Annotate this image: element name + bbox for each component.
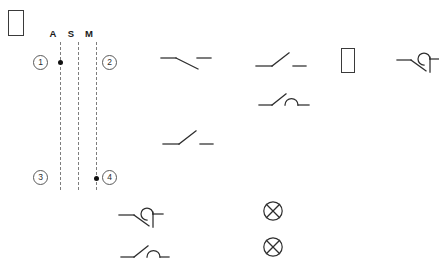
diagram-canvas: A S M 1 2 3 4 — [0, 0, 439, 274]
switch-arrow-actuator-1 — [396, 52, 439, 78]
vertical-line-s — [78, 42, 79, 190]
vertical-line-m — [96, 42, 97, 190]
switch-arrow-actuator-2 — [118, 207, 164, 233]
tofu-box-top-left — [8, 10, 24, 36]
column-label-m: M — [82, 29, 96, 39]
switch-normally-open-1 — [255, 48, 307, 74]
callout-1[interactable]: 1 — [33, 55, 48, 70]
indicator-lamp-2 — [262, 236, 284, 258]
junction-dot-m-bottom — [94, 176, 99, 181]
switch-normally-open-2 — [162, 126, 214, 152]
column-label-s: S — [64, 29, 78, 39]
switch-normally-closed-1 — [160, 50, 212, 76]
callout-2[interactable]: 2 — [102, 55, 117, 70]
switch-limit-arc-1 — [258, 88, 310, 112]
tofu-box-center-right — [341, 48, 355, 73]
callout-3[interactable]: 3 — [33, 170, 48, 185]
indicator-lamp-1 — [262, 200, 284, 222]
switch-limit-arc-2 — [120, 240, 170, 264]
junction-dot-a-top — [58, 60, 63, 65]
callout-4[interactable]: 4 — [102, 170, 117, 185]
column-label-a: A — [46, 29, 60, 39]
